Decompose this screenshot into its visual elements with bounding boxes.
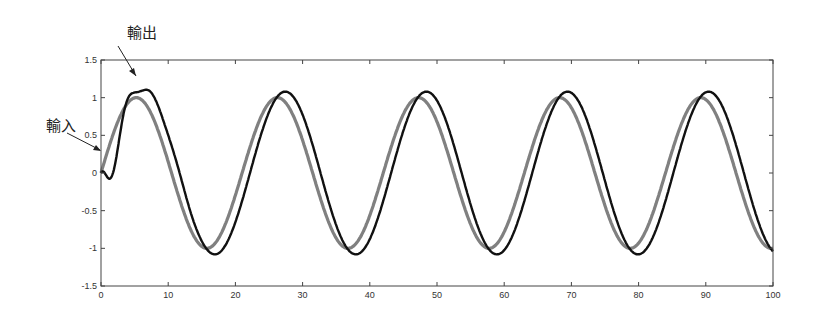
svg-text:20: 20 — [230, 290, 240, 300]
svg-text:30: 30 — [298, 290, 308, 300]
svg-text:60: 60 — [499, 290, 509, 300]
axes: 01020304050607080901001.510.50-0.5-1-1.5 — [81, 55, 780, 300]
output-series — [101, 90, 773, 255]
svg-text:0.5: 0.5 — [84, 130, 97, 140]
svg-text:100: 100 — [765, 290, 780, 300]
svg-text:-0.5: -0.5 — [81, 206, 97, 216]
plot-area — [101, 90, 773, 255]
svg-text:-1: -1 — [89, 243, 97, 253]
svg-text:40: 40 — [365, 290, 375, 300]
svg-text:1: 1 — [92, 93, 97, 103]
svg-text:10: 10 — [163, 290, 173, 300]
input-label: 輸入 — [46, 117, 76, 135]
output-label: 輸出 — [127, 24, 157, 42]
svg-text:-1.5: -1.5 — [81, 281, 97, 291]
svg-text:0: 0 — [92, 168, 97, 178]
annotation-output: 輸出 — [118, 24, 157, 76]
svg-text:70: 70 — [566, 290, 576, 300]
svg-text:90: 90 — [701, 290, 711, 300]
svg-text:1.5: 1.5 — [84, 55, 97, 65]
chart: 01020304050607080901001.510.50-0.5-1-1.5… — [0, 0, 821, 323]
svg-text:80: 80 — [634, 290, 644, 300]
svg-text:50: 50 — [432, 290, 442, 300]
svg-text:0: 0 — [98, 290, 103, 300]
